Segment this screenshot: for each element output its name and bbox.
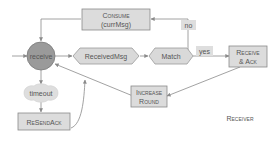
- receivedmsg-node: ReceivedMsg: [73, 48, 139, 64]
- receiver-state-diagram: Consume (currMsg) no receive ReceivedMsg…: [0, 0, 280, 146]
- resendack-node: ReSendAck: [18, 113, 70, 130]
- increase-round-node: Increase Round: [131, 86, 167, 107]
- increase-round-label-2: Round: [139, 98, 159, 105]
- receive-ack-label-1: Receive: [236, 49, 260, 56]
- no-label: no: [185, 22, 193, 29]
- consume-arg-label: (currMsg): [101, 21, 131, 29]
- edge-resendack-to-receive: [71, 80, 85, 128]
- consume-node: Consume (currMsg): [82, 9, 150, 30]
- receivedmsg-label: ReceivedMsg: [85, 53, 128, 61]
- match-node: Match: [149, 48, 193, 64]
- edge-increase-round-to-receive: [55, 64, 133, 96]
- receive-label: receive: [30, 53, 53, 60]
- edges: [12, 19, 240, 128]
- receive-ack-label-2: & Ack: [239, 58, 258, 65]
- resendack-label: ReSendAck: [26, 119, 62, 126]
- timeout-label: timeout: [30, 90, 53, 97]
- increase-round-label-1: Increase: [136, 89, 163, 96]
- receive-node: receive: [27, 42, 55, 70]
- edge-receive-ack-to-increase-round: [167, 67, 240, 96]
- timeout-node: timeout: [24, 84, 58, 103]
- yes-label: yes: [199, 48, 210, 56]
- edge-consume-to-receive: [41, 19, 81, 41]
- consume-label: Consume: [102, 12, 130, 19]
- no-label-group: no: [181, 20, 196, 30]
- receive-ack-node: Receive & Ack: [229, 46, 267, 67]
- yes-label-group: yes: [196, 46, 213, 56]
- diagram-title: Receiver: [226, 115, 253, 122]
- match-label: Match: [161, 53, 180, 60]
